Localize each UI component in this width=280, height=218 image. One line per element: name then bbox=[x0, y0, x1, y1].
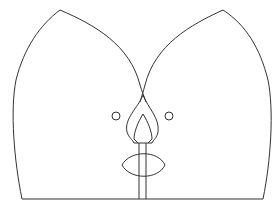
lens bbox=[122, 154, 165, 177]
right-arch bbox=[140, 10, 271, 199]
line-drawing bbox=[0, 0, 280, 218]
left-circle bbox=[112, 112, 120, 120]
flame-outer bbox=[127, 95, 159, 143]
flame-inner bbox=[134, 114, 152, 143]
right-circle bbox=[165, 112, 173, 120]
